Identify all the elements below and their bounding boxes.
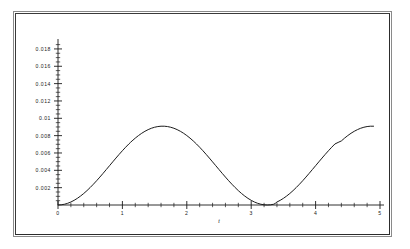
plot-area: 0.0020.0040.0060.0080.010.0120.0140.0160… — [14, 12, 393, 238]
y-tick-label: 0.012 — [36, 98, 52, 104]
x-tick-label: 2 — [185, 210, 188, 216]
x-axis-tick-labels: 012345 — [56, 210, 381, 216]
y-tick-label: 0.016 — [36, 63, 52, 69]
plot-svg: 0.0020.0040.0060.0080.010.0120.0140.0160… — [14, 12, 393, 238]
y-tick-label: 0.018 — [36, 46, 52, 52]
y-tick-label: 0.008 — [36, 133, 52, 139]
figure-frame: 0.0020.0040.0060.0080.010.0120.0140.0160… — [13, 11, 392, 237]
x-tick-label: 1 — [121, 210, 124, 216]
y-tick-label: 0.004 — [36, 167, 52, 173]
y-tick-label: 0.01 — [39, 115, 51, 121]
x-tick-label: 3 — [250, 210, 253, 216]
y-tick-label: 0.002 — [36, 185, 52, 191]
y-tick-label: 0.014 — [36, 81, 52, 87]
x-axis-title: t — [218, 218, 220, 224]
data-curve — [58, 126, 374, 205]
x-tick-label: 4 — [314, 210, 317, 216]
y-axis-tick-labels: 0.0020.0040.0060.0080.010.0120.0140.0160… — [36, 46, 52, 191]
screenshot-root: 0.0020.0040.0060.0080.010.0120.0140.0160… — [0, 0, 410, 249]
y-tick-label: 0.006 — [36, 150, 52, 156]
x-tick-label: 5 — [378, 210, 381, 216]
x-tick-label: 0 — [56, 210, 59, 216]
